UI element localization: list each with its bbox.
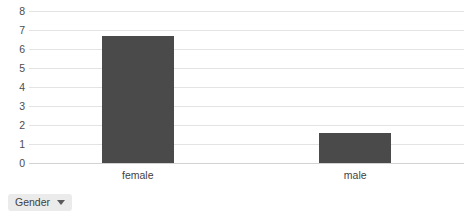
- y-axis: 8 7 6 5 4 3 2 1 0: [0, 11, 25, 163]
- gender-filter-dropdown[interactable]: Gender: [8, 194, 72, 211]
- axis-baseline: [29, 163, 464, 164]
- gridline: [29, 87, 464, 88]
- bar-male[interactable]: [319, 133, 391, 163]
- gridline: [29, 125, 464, 126]
- y-axis-tick-label: 3: [3, 101, 25, 112]
- y-axis-tick-label: 0: [3, 158, 25, 169]
- y-axis-tick-label: 6: [3, 44, 25, 55]
- gridline: [29, 49, 464, 50]
- chevron-down-icon: [57, 200, 65, 205]
- y-axis-tick-label: 4: [3, 82, 25, 93]
- x-axis-tick-label-male: male: [305, 170, 405, 181]
- bar-chart: 8 7 6 5 4 3 2 1 0 female male Gender: [0, 0, 464, 216]
- y-axis-tick-label: 5: [3, 63, 25, 74]
- gender-filter-label: Gender: [15, 197, 50, 208]
- y-axis-tick-label: 8: [3, 6, 25, 17]
- y-axis-tick-label: 2: [3, 120, 25, 131]
- plot-area: [29, 11, 464, 163]
- gridline: [29, 106, 464, 107]
- bar-female[interactable]: [102, 36, 174, 163]
- y-axis-tick-label: 7: [3, 25, 25, 36]
- x-axis-tick-label-female: female: [88, 170, 188, 181]
- y-axis-tick-label: 1: [3, 139, 25, 150]
- gridline: [29, 30, 464, 31]
- gridline: [29, 68, 464, 69]
- gridline: [29, 144, 464, 145]
- gridline: [29, 11, 464, 12]
